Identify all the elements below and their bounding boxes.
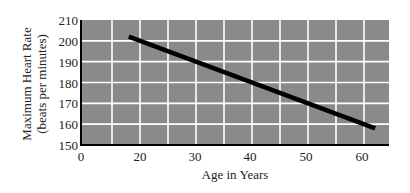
y-axis-label-line2: (beats per minutes) [34, 34, 49, 134]
y-axis-label: Maximum Heart Rate (beats per minutes) [19, 27, 49, 141]
y-tick-label: 170 [59, 96, 79, 111]
x-tick-label: 20 [134, 149, 147, 164]
x-axis-ticks: 02030405060 [78, 149, 369, 164]
y-tick-label: 160 [59, 117, 79, 132]
y-tick-label: 190 [59, 55, 79, 70]
x-axis-label: Age in Years [202, 167, 269, 182]
x-tick-label: 60 [356, 149, 369, 164]
x-tick-label: 0 [78, 149, 85, 164]
y-tick-label: 210 [59, 13, 79, 28]
y-tick-label: 200 [59, 34, 79, 49]
x-tick-label: 50 [300, 149, 313, 164]
y-axis-ticks: 150160170180190200210 [59, 13, 79, 153]
y-tick-label: 150 [59, 138, 79, 153]
y-axis-label-line1: Maximum Heart Rate [19, 27, 34, 141]
x-tick-label: 30 [189, 149, 202, 164]
y-tick-label: 180 [59, 76, 79, 91]
heart-rate-chart: 150160170180190200210 02030405060 Age in… [0, 0, 410, 193]
x-tick-label: 40 [244, 149, 257, 164]
